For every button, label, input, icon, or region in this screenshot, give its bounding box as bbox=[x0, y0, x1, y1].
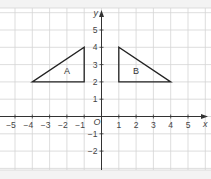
x-axis-label: x bbox=[202, 119, 208, 129]
x-tick-label: −4 bbox=[23, 120, 33, 130]
y-tick-label: 4 bbox=[93, 42, 98, 52]
x-tick-label: 3 bbox=[151, 120, 156, 130]
x-tick-label: 1 bbox=[116, 120, 121, 130]
x-tick-label: −5 bbox=[6, 120, 16, 130]
y-tick-label: 5 bbox=[93, 25, 98, 35]
y-axis-label: y bbox=[93, 8, 99, 18]
shape-label-a: A bbox=[64, 66, 70, 76]
origin-label: O bbox=[94, 117, 101, 127]
x-tick-label: −3 bbox=[41, 120, 51, 130]
y-tick-label: 3 bbox=[93, 60, 98, 70]
x-tick-label: 4 bbox=[168, 120, 173, 130]
x-tick-label: −1 bbox=[75, 120, 85, 130]
x-tick-label: 5 bbox=[186, 120, 191, 130]
grid-background bbox=[0, 8, 211, 170]
y-tick-label: 2 bbox=[93, 77, 98, 87]
y-tick-label: −2 bbox=[88, 146, 98, 156]
y-tick-label: −1 bbox=[88, 129, 98, 139]
y-tick-label: 1 bbox=[93, 94, 98, 104]
shape-label-b: B bbox=[133, 66, 139, 76]
coordinate-grid-diagram: xyO −5−4−3−2−11234554321−1−2 AB bbox=[0, 0, 211, 179]
x-tick-label: −2 bbox=[58, 120, 68, 130]
x-tick-label: 2 bbox=[134, 120, 139, 130]
